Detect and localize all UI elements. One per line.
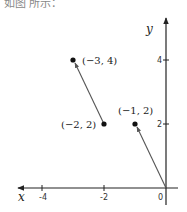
point-label: (−1, 2) — [118, 105, 153, 116]
vector-a — [75, 63, 104, 124]
point-label: (−2, 2) — [61, 119, 96, 130]
point-dot — [101, 121, 106, 126]
y-tick-label: 2 — [157, 120, 162, 129]
x-axis-label: x — [18, 190, 25, 204]
point-dot — [70, 57, 75, 62]
x-tick-label: 0 — [158, 193, 163, 202]
y-axis-label: y — [145, 22, 153, 36]
point-label: (−3, 4) — [82, 55, 117, 66]
y-tick-label: 4 — [157, 56, 162, 65]
x-tick-label: -4 — [39, 193, 47, 202]
vector-b — [137, 127, 166, 188]
point-dot — [132, 121, 137, 126]
coordinate-diagram: -4 -2 0 4 2 x y (−3, 4) (−2, 2) (−1, 2) — [0, 0, 187, 212]
x-tick-label: -2 — [100, 193, 108, 202]
